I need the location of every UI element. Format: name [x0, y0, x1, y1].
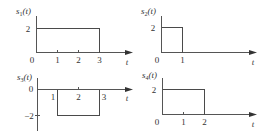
signal-s2 [162, 28, 183, 53]
x-axis-arrow-icon [249, 50, 257, 55]
x-axis-arrow-icon [249, 112, 257, 117]
plot-s2: s2(t) 2 0 1 t [141, 6, 257, 67]
y-label-s2: s2(t) [141, 6, 156, 17]
x-tick-label-2: 2 [76, 55, 81, 65]
x-axis-arrow-icon [125, 50, 133, 55]
y-label-s4: s4(t) [142, 70, 157, 81]
plot-s4: s4(t) 2 0 1 2 t [142, 70, 257, 129]
x-tick-label-1: 1 [55, 55, 60, 65]
x-tick-label-2: 2 [202, 117, 207, 127]
signal-s4 [163, 90, 205, 115]
x-tick-label-0: 0 [155, 55, 160, 65]
y-tick-label-2: 2 [26, 24, 31, 34]
x-label-t: t [252, 119, 255, 129]
plot-s3: s3(t) 0 −2 1 2 3 t [17, 72, 133, 131]
y-label-s3: s3(t) [17, 72, 32, 83]
plot-s1: s1(t) 2 0 1 2 3 t [16, 6, 133, 67]
x-tick-label-3: 3 [97, 55, 102, 65]
y-tick-label-0: 0 [29, 84, 34, 94]
x-tick-label-1: 1 [51, 92, 56, 102]
y-tick-label-2: 2 [151, 23, 156, 33]
x-tick-label-2: 2 [76, 92, 81, 102]
y-tick-label-neg2: −2 [24, 111, 34, 121]
x-label-t: t [126, 93, 129, 103]
x-tick-label-0: 0 [30, 55, 35, 65]
y-tick-label-2: 2 [152, 85, 157, 95]
x-tick-label-1: 1 [181, 117, 186, 127]
signal-waveforms-figure: s1(t) 2 0 1 2 3 t s2(t) 2 0 1 t s3(t) 0 … [0, 0, 266, 135]
y-label-s1: s1(t) [16, 6, 31, 17]
x-tick-label-0: 0 [155, 117, 160, 127]
signal-s1 [37, 29, 100, 53]
x-label-t: t [126, 57, 129, 67]
x-axis-arrow-icon [125, 87, 133, 92]
x-label-t: t [252, 57, 255, 67]
x-tick-label-3: 3 [102, 92, 107, 102]
x-tick-label-1: 1 [180, 55, 185, 65]
